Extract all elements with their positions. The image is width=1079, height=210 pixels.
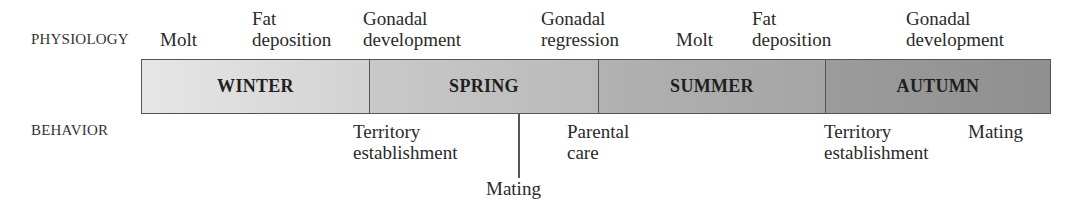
mating-marker-line: [518, 114, 520, 178]
physiology-event-fat-deposition-2: Fat deposition: [752, 8, 831, 50]
event-line2: development: [906, 29, 1004, 50]
event-line1: Gonadal: [541, 8, 619, 29]
season-label: WINTER: [217, 76, 294, 97]
behavior-event-mating-2: Mating: [968, 121, 1023, 142]
season-spring: SPRING: [369, 60, 598, 113]
event-line2: deposition: [252, 29, 331, 50]
season-winter: WINTER: [142, 60, 369, 113]
event-line1: [676, 8, 713, 29]
event-line2: establishment: [353, 142, 457, 163]
event-line2: Molt: [676, 29, 713, 50]
event-line2: establishment: [824, 142, 928, 163]
season-label: SUMMER: [670, 76, 754, 97]
event-line2: regression: [541, 29, 619, 50]
season-summer: SUMMER: [598, 60, 825, 113]
event-line2: development: [363, 29, 461, 50]
physiology-event-gonadal-development-2: Gonadal development: [906, 8, 1004, 50]
event-line1: Territory: [353, 121, 457, 142]
event-line2: Molt: [160, 29, 197, 50]
event-line2: deposition: [752, 29, 831, 50]
season-bar: WINTER SPRING SUMMER AUTUMN: [141, 59, 1051, 114]
behavior-event-territory-establishment-1: Territory establishment: [353, 121, 457, 163]
event-line1: Gonadal: [363, 8, 461, 29]
event-line1: Fat: [252, 8, 331, 29]
event-line1: Mating: [486, 178, 541, 199]
physiology-event-fat-deposition-1: Fat deposition: [252, 8, 331, 50]
event-line1: Mating: [968, 121, 1023, 142]
season-label: AUTUMN: [897, 76, 980, 97]
event-line1: Territory: [824, 121, 928, 142]
event-line2: care: [567, 142, 629, 163]
behavior-row-label: BEHAVIOR: [31, 122, 108, 139]
physiology-event-gonadal-regression: Gonadal regression: [541, 8, 619, 50]
physiology-event-molt-2: Molt: [676, 8, 713, 50]
behavior-event-territory-establishment-2: Territory establishment: [824, 121, 928, 163]
physiology-event-molt-1: Molt: [160, 8, 197, 50]
behavior-event-parental-care: Parental care: [567, 121, 629, 163]
event-line1: Parental: [567, 121, 629, 142]
season-autumn: AUTUMN: [825, 60, 1050, 113]
event-line1: [160, 8, 197, 29]
physiology-event-gonadal-development-1: Gonadal development: [363, 8, 461, 50]
season-label: SPRING: [449, 76, 519, 97]
physiology-row-label: PHYSIOLOGY: [31, 31, 129, 48]
event-line1: Gonadal: [906, 8, 1004, 29]
event-line1: Fat: [752, 8, 831, 29]
behavior-event-mating-1: Mating: [486, 178, 541, 199]
